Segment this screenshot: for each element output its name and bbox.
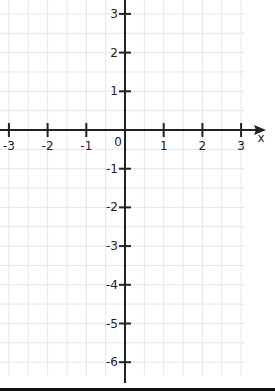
- axes: [0, 0, 266, 383]
- y-tick-label: -4: [106, 278, 118, 292]
- x-tick-label: -3: [3, 139, 15, 153]
- y-tick-label: -5: [106, 317, 118, 331]
- y-tick-label: 1: [110, 84, 118, 98]
- y-tick-label: -2: [106, 200, 118, 214]
- y-tick-label: -6: [106, 355, 118, 369]
- y-tick-label: -1: [106, 162, 118, 176]
- x-tick-label: -1: [80, 139, 92, 153]
- coordinate-plane: -3-2-1123321-1-2-3-4-5-60x: [0, 0, 275, 391]
- x-tick-label: 2: [199, 139, 207, 153]
- x-tick-label: 1: [160, 139, 168, 153]
- x-axis-label: x: [257, 131, 264, 145]
- x-tick-label: 3: [237, 139, 245, 153]
- x-tick-label: -2: [42, 139, 54, 153]
- y-tick-label: 3: [110, 7, 118, 21]
- y-tick-label: -3: [106, 239, 118, 253]
- origin-label: 0: [114, 135, 122, 149]
- y-tick-label: 2: [110, 46, 118, 60]
- grid-lines: [0, 0, 245, 375]
